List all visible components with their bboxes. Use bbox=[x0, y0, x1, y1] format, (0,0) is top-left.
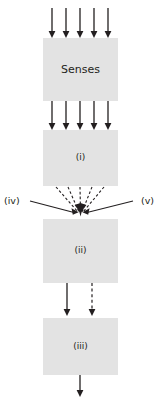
arrow-down-icon bbox=[49, 101, 56, 130]
arrow-down-icon bbox=[105, 8, 112, 38]
node-senses: Senses bbox=[43, 38, 118, 101]
node-stage-i: (i) bbox=[43, 130, 118, 186]
arrow-down-icon bbox=[63, 101, 70, 130]
flow-diagram-root: Senses bbox=[0, 0, 163, 401]
input-iv-line bbox=[30, 201, 74, 213]
output-arrow-group bbox=[77, 375, 84, 397]
converging-fan-group bbox=[56, 187, 104, 217]
input-v-arrowhead bbox=[82, 208, 89, 215]
arrow-down-icon bbox=[91, 8, 98, 38]
external-input-iv: (iv) bbox=[4, 195, 79, 215]
node-stage-ii-label: (ii) bbox=[74, 245, 86, 255]
arrow-down-icon bbox=[64, 283, 71, 316]
node-stage-iii-label: (iii) bbox=[73, 341, 88, 351]
arrow-down-icon bbox=[105, 101, 112, 130]
arrow-down-icon bbox=[77, 8, 84, 38]
stage-ii-to-iii-arrow-group bbox=[64, 283, 96, 316]
sensory-input-arrow-group bbox=[49, 8, 112, 38]
node-stage-iii: (iii) bbox=[43, 318, 118, 375]
flow-diagram-canvas: Senses bbox=[0, 0, 163, 401]
input-v-label: (v) bbox=[141, 195, 154, 206]
input-v-line bbox=[87, 201, 133, 213]
arrow-down-icon bbox=[77, 375, 84, 397]
external-input-v: (v) bbox=[82, 195, 154, 215]
input-iv-label: (iv) bbox=[4, 195, 20, 206]
node-senses-label: Senses bbox=[61, 63, 100, 76]
senses-to-stage-i-arrow-group bbox=[49, 101, 112, 130]
node-stage-ii: (ii) bbox=[43, 219, 118, 283]
node-stage-i-label: (i) bbox=[76, 152, 86, 162]
arrow-down-icon bbox=[77, 101, 84, 130]
arrow-down-icon bbox=[49, 8, 56, 38]
arrow-down-icon bbox=[91, 101, 98, 130]
fan-line bbox=[83, 187, 104, 212]
arrow-down-icon bbox=[63, 8, 70, 38]
arrow-down-dashed-icon bbox=[89, 283, 96, 316]
